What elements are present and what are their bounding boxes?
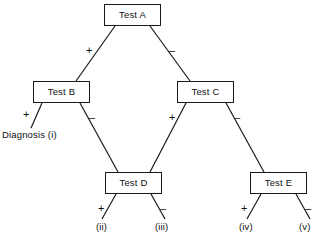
- node-test-e-label: Test E: [265, 178, 293, 188]
- edge-label-b-minus: –: [89, 112, 95, 123]
- edge-c-e: [226, 103, 264, 172]
- edge-label-c-plus: +: [169, 112, 175, 123]
- edge-label-e-minus: –: [305, 203, 311, 214]
- edge-label-d-plus: +: [98, 203, 104, 214]
- outcome-iv: (iv): [239, 222, 253, 232]
- outcome-v: (v): [299, 222, 311, 232]
- node-test-d[interactable]: Test D: [105, 172, 162, 194]
- outcome-iii: (iii): [155, 222, 168, 232]
- node-test-d-label: Test D: [119, 178, 147, 188]
- edge-label-d-minus: –: [160, 203, 166, 214]
- decision-tree-diagram: Test A Test B Test C Test D Test E + – +…: [0, 0, 322, 240]
- edge-label-a-plus: +: [86, 45, 92, 56]
- node-test-a-label: Test A: [119, 10, 146, 20]
- edge-c-d: [150, 103, 186, 172]
- node-test-e[interactable]: Test E: [250, 172, 307, 194]
- edge-label-e-plus: +: [241, 203, 247, 214]
- edge-a-b: [76, 26, 115, 81]
- node-test-c[interactable]: Test C: [177, 81, 234, 103]
- outcome-ii: (ii): [96, 222, 107, 232]
- node-test-b[interactable]: Test B: [33, 81, 90, 103]
- node-test-b-label: Test B: [48, 87, 76, 97]
- edge-b-i: [31, 103, 42, 128]
- edge-e-iv: [247, 194, 261, 219]
- edge-b-d: [80, 103, 118, 172]
- edge-label-b-plus: +: [23, 109, 29, 120]
- edge-label-c-minus: –: [234, 112, 240, 123]
- node-test-c-label: Test C: [191, 87, 219, 97]
- outcome-diagnosis-i: Diagnosis (i): [2, 130, 57, 140]
- node-test-a[interactable]: Test A: [104, 4, 161, 26]
- edge-label-a-minus: –: [169, 45, 175, 56]
